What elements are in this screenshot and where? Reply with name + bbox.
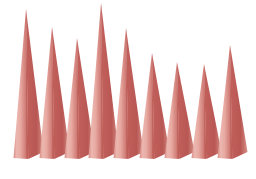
cone-bar[interactable] bbox=[218, 45, 248, 159]
cone-bar[interactable] bbox=[140, 53, 170, 159]
cone-bar[interactable] bbox=[40, 27, 70, 159]
cone-bar[interactable] bbox=[14, 9, 44, 159]
cone-bar[interactable] bbox=[89, 3, 119, 159]
cone-chart bbox=[0, 0, 256, 179]
plot-area bbox=[0, 0, 256, 179]
cone-chart-canvas bbox=[0, 0, 256, 179]
cone-bar[interactable] bbox=[165, 62, 195, 159]
cone-bar[interactable] bbox=[114, 28, 144, 159]
cones-group bbox=[14, 3, 248, 159]
cone-bar[interactable] bbox=[192, 64, 222, 159]
